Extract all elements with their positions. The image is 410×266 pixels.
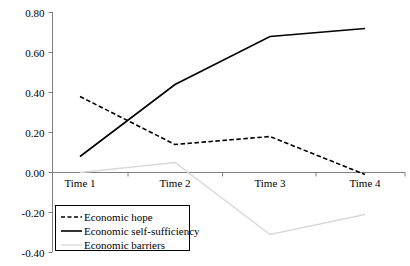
y-tick-label: -0.40 [22,247,45,259]
y-tick-label: -0.20 [22,207,45,219]
x-tick-label: Time 1 [64,177,95,189]
line-chart: 0.800.600.400.200.00-0.20-0.40 Time 1Tim… [0,0,410,266]
legend-label: Economic self-sufficiency [84,225,200,237]
y-tick-label: 0.40 [25,87,45,99]
legend-label: Economic hope [84,211,153,223]
x-tick-label: Time 3 [254,177,286,189]
y-tick-label: 0.20 [25,127,45,139]
x-tick-label: Time 4 [349,177,381,189]
chart-background [0,0,410,266]
legend-label: Economic barriers [84,239,165,251]
y-tick-label: 0.60 [25,47,45,59]
chart-canvas: 0.800.600.400.200.00-0.20-0.40 Time 1Tim… [0,0,410,266]
y-tick-label: 0.00 [25,167,45,179]
x-tick-label: Time 2 [159,177,190,189]
y-tick-label: 0.80 [25,7,45,19]
